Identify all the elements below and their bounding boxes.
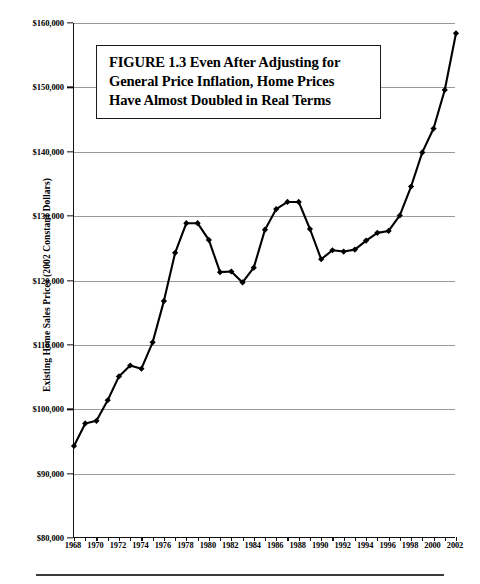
data-point-marker <box>408 183 414 189</box>
x-axis-tick-label: 1982 <box>222 541 238 550</box>
data-point-marker <box>172 250 178 256</box>
x-axis-tick-label: 1972 <box>110 541 126 550</box>
x-axis-tick-label: 1974 <box>132 541 148 550</box>
x-axis-tick-label: 1994 <box>357 541 373 550</box>
y-axis-tick-label: $160,000 <box>33 18 64 28</box>
y-axis-tick-label: $110,000 <box>33 340 64 350</box>
x-axis-tick-label: 1980 <box>200 541 216 550</box>
data-point-marker <box>307 226 313 232</box>
data-point-marker <box>183 220 189 226</box>
y-axis-tick-label-group: $160,000$150,000$140,000$130,000$120,000… <box>0 0 73 584</box>
bottom-divider-rule <box>36 574 444 576</box>
data-point-marker <box>150 339 156 345</box>
y-axis-tick-label: $150,000 <box>33 82 64 92</box>
x-axis-tick-label: 1986 <box>267 541 283 550</box>
figure-title-line-3: Have Almost Doubled in Real Terms <box>109 91 370 110</box>
y-axis-tick-label: $90,000 <box>37 469 64 479</box>
x-axis-tick-label: 2000 <box>424 541 440 550</box>
figure-title-line-1: FIGURE 1.3 Even After Adjusting for <box>109 53 370 72</box>
y-axis-tick-label: $130,000 <box>33 211 64 221</box>
x-axis-tick-label: 1970 <box>87 541 103 550</box>
x-axis-tick-label: 1992 <box>334 541 350 550</box>
data-point-marker <box>161 298 167 304</box>
y-axis-tick-label: $140,000 <box>33 147 64 157</box>
data-point-marker <box>453 30 459 36</box>
data-point-marker <box>217 269 223 275</box>
figure-title-callout: FIGURE 1.3 Even After Adjusting for Gene… <box>96 45 381 119</box>
x-axis-tick-label: 1998 <box>402 541 418 550</box>
data-point-marker <box>341 248 347 254</box>
x-axis-tick-label: 1990 <box>312 541 328 550</box>
x-axis-tick-label: 1976 <box>155 541 171 550</box>
x-axis-tick-label-group: 1968197019721974197619781980198219841986… <box>0 541 480 557</box>
y-axis-tick-label: $100,000 <box>33 404 64 414</box>
x-axis-tick-label: 1996 <box>379 541 395 550</box>
x-axis-tick-label: 1968 <box>65 541 81 550</box>
x-axis-tick-label: 1988 <box>290 541 306 550</box>
data-point-marker <box>296 199 302 205</box>
y-axis-tick-label: $120,000 <box>33 276 64 286</box>
x-axis-tick-label: 1978 <box>177 541 193 550</box>
figure-container: Existing Home Sales Prices (2002 Constan… <box>0 0 480 584</box>
x-axis-tick-label: 1984 <box>245 541 261 550</box>
figure-title-line-2: General Price Inflation, Home Prices <box>109 72 370 91</box>
data-point-marker <box>442 87 448 93</box>
data-point-marker <box>138 366 144 372</box>
x-axis-tick-label: 2002 <box>447 541 463 550</box>
